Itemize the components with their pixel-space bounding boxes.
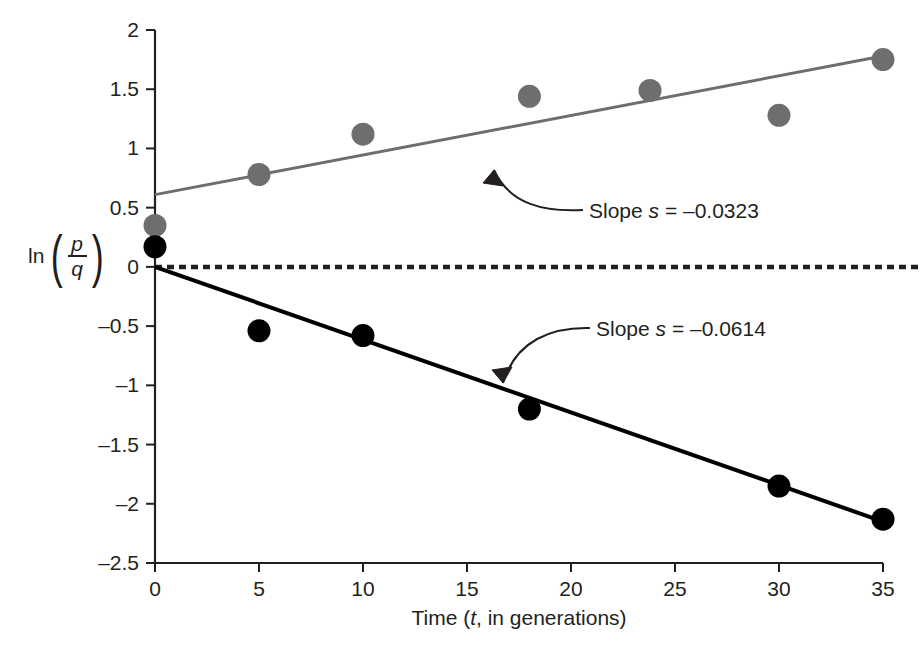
x-tick-label: 5 xyxy=(253,577,265,600)
y-tick-label: –2 xyxy=(116,492,139,515)
fit-lines xyxy=(155,56,883,521)
y-tick-label: –1 xyxy=(116,373,139,396)
x-tick-label: 30 xyxy=(767,577,790,600)
x-axis-ticks: 05101520253035 xyxy=(149,563,895,600)
slope-black-pre: Slope xyxy=(596,317,656,340)
y-tick-label: 2 xyxy=(127,18,139,41)
y-tick-label: 0.5 xyxy=(110,196,139,219)
x-tick-label: 35 xyxy=(871,577,894,600)
data-point-gray-series xyxy=(518,85,541,108)
slope-black-post: = –0.0614 xyxy=(666,317,766,340)
data-points xyxy=(144,48,895,531)
slope-black-italic: s xyxy=(656,317,667,340)
x-axis-title-post: , in generations) xyxy=(476,606,627,629)
data-point-gray-series xyxy=(768,104,791,127)
data-point-black-series xyxy=(768,475,791,498)
y-tick-label: 0 xyxy=(127,255,139,278)
y-tick-label: 1 xyxy=(127,136,139,159)
y-tick-label: –0.5 xyxy=(98,314,139,337)
data-point-black-series xyxy=(518,398,541,421)
data-point-gray-series xyxy=(639,79,662,102)
slope-gray-pre: Slope xyxy=(589,199,649,222)
slope-black-arrow xyxy=(492,328,590,383)
x-tick-label: 15 xyxy=(455,577,478,600)
data-point-gray-series xyxy=(872,48,895,71)
y-tick-label: –1.5 xyxy=(98,433,139,456)
y-axis-ticks: –2.5–2–1.5–1–0.500.511.52 xyxy=(98,18,155,574)
data-point-black-series xyxy=(872,508,895,531)
slope-gray-arrow xyxy=(483,170,583,210)
y-tick-label: 1.5 xyxy=(110,77,139,100)
plot-area: –2.5–2–1.5–1–0.500.511.52 05101520253035… xyxy=(0,0,920,654)
figure-container: ln ( p q ) –2.5–2–1.5–1–0.500.511.52 051… xyxy=(0,0,920,654)
x-axis-title: Time (t, in generations) xyxy=(411,606,626,629)
data-point-gray-series xyxy=(144,214,167,237)
x-tick-label: 0 xyxy=(149,577,161,600)
slope-gray-label: Slope s = –0.0323 xyxy=(589,199,759,222)
data-point-black-series xyxy=(248,319,271,342)
slope-gray-italic: s xyxy=(649,199,660,222)
x-tick-label: 20 xyxy=(559,577,582,600)
x-tick-label: 25 xyxy=(663,577,686,600)
slope-black-label: Slope s = –0.0614 xyxy=(596,317,766,340)
slope-gray-post: = –0.0323 xyxy=(659,199,759,222)
data-point-black-series xyxy=(352,324,375,347)
x-tick-label: 10 xyxy=(351,577,374,600)
data-point-black-series xyxy=(144,235,167,258)
y-tick-label: –2.5 xyxy=(98,551,139,574)
data-point-gray-series xyxy=(352,123,375,146)
x-axis-title-pre: Time ( xyxy=(411,606,470,629)
data-point-gray-series xyxy=(248,163,271,186)
